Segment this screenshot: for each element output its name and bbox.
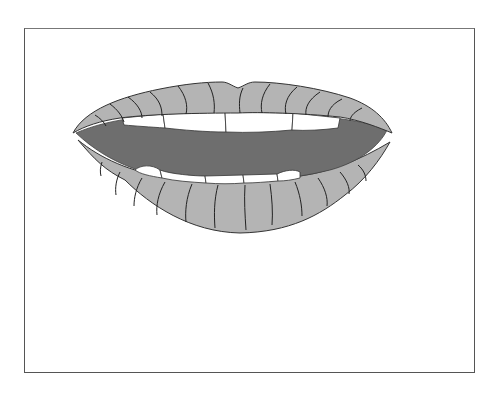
mouth-illustration — [0, 0, 500, 397]
